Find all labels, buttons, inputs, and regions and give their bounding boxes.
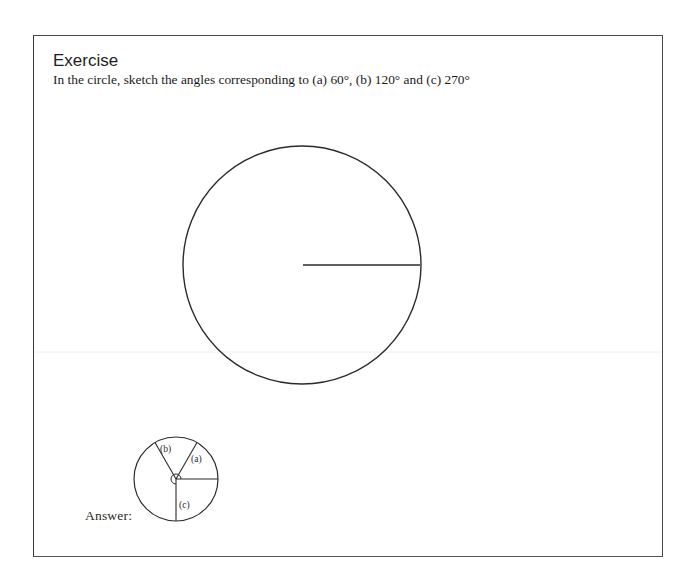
label-c: (c) — [179, 500, 190, 511]
main-circle-figure — [183, 146, 421, 384]
label-b: (b) — [160, 444, 171, 455]
label-a: (a) — [191, 454, 202, 465]
answer-figure: (b) (a) (c) — [134, 437, 218, 521]
answer-label: Answer: — [85, 508, 132, 524]
figures-canvas: (b) (a) (c) — [0, 0, 695, 570]
